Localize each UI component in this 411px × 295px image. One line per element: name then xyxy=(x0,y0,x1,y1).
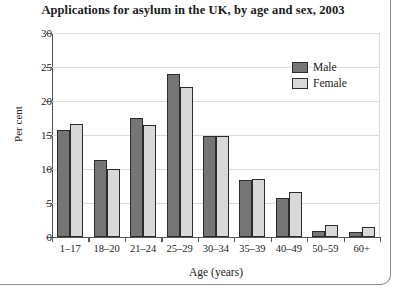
x-tick-mark xyxy=(344,237,345,242)
bar-female xyxy=(216,136,229,237)
bar-female xyxy=(325,225,338,237)
x-tick-label: 18–20 xyxy=(88,243,124,254)
bar-male xyxy=(203,136,216,237)
bar-male xyxy=(94,160,107,237)
legend-swatch-male xyxy=(292,62,308,73)
bar-group xyxy=(88,33,124,237)
bar-female xyxy=(107,169,120,237)
bar-male xyxy=(276,198,289,237)
bar-male xyxy=(312,231,325,237)
bar-male xyxy=(349,232,362,237)
bar-group xyxy=(161,33,197,237)
x-tick-label: 30–34 xyxy=(198,243,234,254)
x-tick-label: 25–29 xyxy=(161,243,197,254)
bar-male xyxy=(130,118,143,237)
x-tick-mark xyxy=(234,237,235,242)
x-tick-label: 35–39 xyxy=(234,243,270,254)
bar-female xyxy=(180,87,193,237)
bar-female xyxy=(362,227,375,237)
bar-group xyxy=(52,33,88,237)
chart-title: Applications for asylum in the UK, by ag… xyxy=(0,3,386,18)
x-axis-line xyxy=(52,237,380,238)
bar-group xyxy=(344,33,380,237)
bar-female xyxy=(252,179,265,237)
legend-swatch-female xyxy=(292,78,308,89)
asylum-applications-bar-chart: Applications for asylum in the UK, by ag… xyxy=(0,0,411,295)
x-tick-mark xyxy=(380,237,381,242)
x-tick-mark xyxy=(307,237,308,242)
legend-label: Male xyxy=(313,62,337,74)
x-tick-mark xyxy=(271,237,272,242)
x-tick-mark xyxy=(125,237,126,242)
x-tick-mark xyxy=(161,237,162,242)
bar-female xyxy=(289,192,302,237)
x-tick-label: 60+ xyxy=(344,243,380,254)
x-tick-label: 21–24 xyxy=(125,243,161,254)
y-axis-tick-labels: 051015202530 xyxy=(0,0,52,295)
bar-male xyxy=(57,130,70,237)
bar-male xyxy=(167,74,180,237)
x-tick-label: 40–49 xyxy=(271,243,307,254)
bar-female xyxy=(143,125,156,237)
x-tick-label: 50–59 xyxy=(307,243,343,254)
bar-group xyxy=(198,33,234,237)
x-tick-mark xyxy=(88,237,89,242)
bar-group xyxy=(125,33,161,237)
legend-item-male: Male xyxy=(292,62,347,74)
x-tick-mark xyxy=(198,237,199,242)
bar-female xyxy=(70,124,83,237)
chart-legend: MaleFemale xyxy=(292,62,347,93)
legend-item-female: Female xyxy=(292,78,347,90)
x-tick-label: 1–17 xyxy=(52,243,88,254)
legend-label: Female xyxy=(313,78,347,90)
bar-male xyxy=(239,180,252,237)
bar-group xyxy=(234,33,270,237)
x-tick-mark xyxy=(52,237,53,242)
x-axis-title: Age (years) xyxy=(52,266,380,278)
